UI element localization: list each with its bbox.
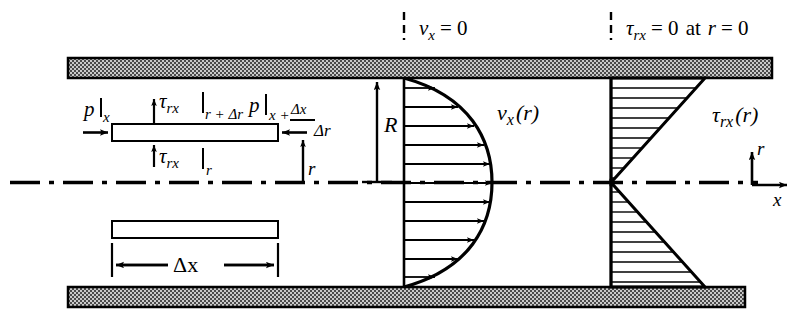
velocity-profile-arrows (404, 88, 492, 277)
shear-profile-lower-triangle (611, 183, 705, 288)
pressure-in-label: p (82, 97, 95, 121)
shear-profile-upper-triangle (611, 78, 705, 183)
pressure-out-label: p (247, 93, 260, 117)
pipe-flow-diagram: vx= 0 τrx= 0atr= 0 p x τrx (0, 0, 808, 324)
radial-axis-label: r (757, 138, 765, 159)
top-pipe-wall (68, 58, 772, 78)
pressure-in-subscript: x (102, 109, 110, 125)
control-volume-lower (112, 221, 278, 238)
pressure-out-delta-x: Δx (290, 101, 307, 117)
axial-axis-label: x (772, 189, 782, 210)
r-dimension-label: r (308, 158, 316, 179)
no-slip-label: vx= 0 (419, 16, 468, 43)
delta-r-label: Δr (313, 121, 331, 140)
radius-label: R (383, 112, 398, 137)
velocity-profile-label: vx(r) (497, 100, 539, 128)
pressure-out-subscript: x + (268, 107, 290, 123)
shear-inner-label: τrx (159, 144, 179, 171)
control-volume-upper (112, 124, 278, 141)
shear-outer-subscript: r + Δr (205, 106, 243, 122)
shear-outer-label: τrx (159, 89, 179, 116)
shear-profile-label: τrx(r) (712, 102, 758, 130)
delta-x-label: Δx (173, 252, 198, 277)
bottom-pipe-wall (68, 287, 745, 307)
symmetry-label: τrx= 0atr= 0 (626, 16, 749, 43)
shear-inner-subscript: r (206, 162, 212, 178)
